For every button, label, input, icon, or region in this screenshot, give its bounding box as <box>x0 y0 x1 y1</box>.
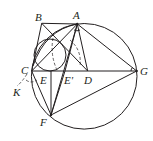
point-f <box>50 114 52 116</box>
label-a: A <box>72 9 80 21</box>
label-g: G <box>140 65 148 77</box>
label-d: D <box>83 74 92 86</box>
geometry-diagram: B A C E E' D G F K <box>0 0 153 141</box>
label-k: K <box>12 86 21 98</box>
angle-mark-a <box>74 30 80 31</box>
segment-bd <box>42 23 88 71</box>
dashed-arc-1 <box>52 38 57 70</box>
label-e: E <box>39 74 47 86</box>
point-g <box>136 70 138 72</box>
label-f: F <box>39 116 47 128</box>
label-e-prime: E' <box>63 74 74 86</box>
segment-ba <box>42 23 78 24</box>
angle-mark-g <box>131 68 133 72</box>
point-a <box>76 23 78 25</box>
label-c: C <box>21 64 29 76</box>
label-b: B <box>35 11 42 23</box>
